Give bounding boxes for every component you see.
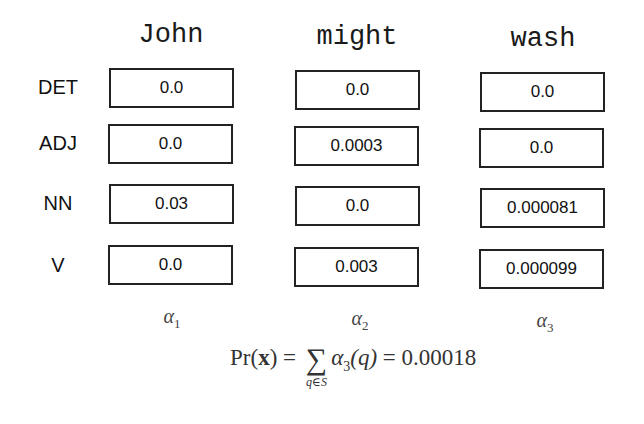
row-label-nn: NN: [28, 192, 88, 215]
alpha-label-2: α2: [330, 307, 390, 334]
column-header-wash: wash: [473, 24, 613, 54]
row-label-det: DET: [28, 76, 88, 99]
formula-equals-2: =: [377, 345, 401, 371]
cell-might-adj: 0.0003: [294, 126, 419, 166]
cell-john-v: 0.0: [108, 245, 233, 285]
cell-wash-nn: 0.000081: [480, 188, 605, 228]
cell-wash-det: 0.0: [480, 72, 605, 112]
formula-equals-1: =: [277, 345, 301, 371]
cell-might-nn: 0.0: [295, 186, 420, 226]
alpha-label-3: α3: [515, 309, 575, 336]
cell-john-det: 0.0: [109, 68, 234, 108]
summation-subscript: q∈S: [306, 375, 327, 390]
row-label-v: V: [28, 254, 88, 277]
probability-formula: Pr(x) = ∑ q∈S α3(q) = 0.00018: [230, 345, 476, 390]
alpha-label-1: α1: [142, 305, 202, 332]
formula-term: α3(q): [331, 345, 377, 375]
cell-wash-adj: 0.0: [479, 128, 604, 168]
cell-might-v: 0.003: [294, 247, 419, 287]
column-header-john: John: [101, 20, 241, 50]
summation: ∑ q∈S: [306, 345, 327, 390]
sigma-symbol: ∑: [306, 345, 327, 373]
cell-john-adj: 0.0: [108, 124, 233, 164]
formula-result: 0.00018: [402, 345, 477, 371]
row-label-adj: ADJ: [28, 132, 88, 155]
cell-might-det: 0.0: [295, 70, 420, 110]
cell-wash-v: 0.000099: [479, 249, 604, 289]
cell-john-nn: 0.03: [109, 184, 234, 224]
formula-lhs: Pr(x): [230, 345, 277, 371]
column-header-might: might: [287, 22, 427, 52]
